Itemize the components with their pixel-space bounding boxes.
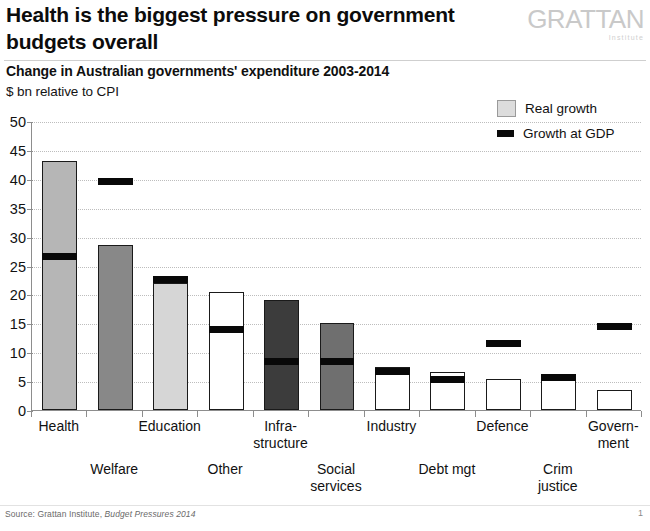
grattan-logo: GRATTAN Institute (504, 6, 644, 50)
gdp-growth-marker[interactable] (42, 253, 77, 260)
bar-group[interactable] (153, 121, 188, 410)
header-divider (4, 60, 646, 61)
bar-group[interactable] (486, 121, 521, 410)
x-axis-label-health: Health (14, 418, 103, 435)
gdp-growth-marker[interactable] (541, 374, 576, 381)
bar-real-growth[interactable] (486, 379, 521, 410)
bar-group[interactable] (42, 121, 77, 410)
x-axis-label-social-services: Socialservices (292, 461, 381, 494)
bar-real-growth[interactable] (98, 245, 133, 410)
y-axis-tick-label: 30 (0, 231, 26, 246)
y-axis-labels: 05101520253035404550 (0, 122, 26, 411)
bar-real-growth[interactable] (42, 161, 77, 410)
source-prefix: Source: Grattan Institute, (5, 509, 105, 519)
bar-group[interactable] (541, 121, 576, 410)
gdp-growth-marker[interactable] (98, 178, 133, 185)
legend-label-real-growth: Real growth (525, 101, 597, 116)
page-title: Health is the biggest pressure on govern… (6, 2, 506, 55)
legend-item-real-growth: Real growth (497, 100, 647, 117)
bar-group[interactable] (209, 121, 244, 410)
y-axis-tick-label: 15 (0, 317, 26, 332)
y-axis-tick-label: 25 (0, 260, 26, 275)
gdp-growth-marker[interactable] (430, 376, 465, 383)
x-axis-label-education: Education (125, 418, 214, 435)
legend-swatch-icon-real-growth (497, 100, 516, 117)
y-axis-tick-label: 35 (0, 202, 26, 217)
page-number: 1 (638, 508, 643, 518)
x-axis-label-defence: Defence (458, 418, 547, 435)
gdp-growth-marker[interactable] (209, 326, 244, 333)
bar-real-growth[interactable] (541, 379, 576, 410)
gdp-growth-marker[interactable] (153, 276, 188, 283)
chart-units-label: $ bn relative to CPI (6, 84, 119, 99)
gdp-growth-marker[interactable] (320, 358, 355, 365)
chart-subtitle: Change in Australian governments' expend… (6, 63, 389, 79)
bar-group[interactable] (597, 121, 632, 410)
y-axis-tick-label: 45 (0, 144, 26, 159)
bar-group[interactable] (320, 121, 355, 410)
y-axis-tick-label: 5 (0, 375, 26, 390)
x-axis-label-welfare: Welfare (70, 461, 159, 478)
x-axis-labels: HealthWelfareEducationOtherInfra-structu… (0, 414, 650, 504)
plot-area (31, 122, 641, 411)
slide: Health is the biggest pressure on govern… (0, 0, 650, 531)
gdp-growth-marker[interactable] (486, 340, 521, 347)
bar-real-growth[interactable] (153, 283, 188, 410)
y-axis-tick-label: 20 (0, 288, 26, 303)
y-axis-tick-label: 40 (0, 173, 26, 188)
footer-divider (0, 505, 650, 506)
logo-subtext: Institute (504, 34, 644, 41)
x-axis-label-crim-justice: Crimjustice (513, 461, 602, 494)
gdp-growth-marker[interactable] (597, 323, 632, 330)
bar-real-growth[interactable] (209, 292, 244, 410)
bar-real-growth[interactable] (264, 300, 299, 410)
x-axis-label-industry: Industry (347, 418, 436, 435)
logo-wordmark: GRATTAN (504, 6, 644, 32)
source-note: Source: Grattan Institute, Budget Pressu… (5, 509, 196, 519)
y-axis-tick-label: 50 (0, 115, 26, 130)
bar-group[interactable] (264, 121, 299, 410)
x-axis-label-government: Govern-ment (569, 418, 650, 451)
bar-group[interactable] (375, 121, 410, 410)
x-axis-label-other: Other (181, 461, 270, 478)
source-title: Budget Pressures 2014 (105, 509, 196, 519)
y-axis-tick-label: 10 (0, 346, 26, 361)
gdp-growth-marker[interactable] (375, 368, 410, 375)
bar-real-growth[interactable] (320, 323, 355, 410)
x-axis-label-infra-structure: Infra-structure (236, 418, 325, 451)
gdp-growth-marker[interactable] (264, 358, 299, 365)
bar-series (32, 122, 641, 410)
x-axis-label-debt-mgt: Debt mgt (403, 461, 492, 478)
bar-group[interactable] (98, 121, 133, 410)
bar-real-growth[interactable] (597, 390, 632, 410)
bar-group[interactable] (430, 121, 465, 410)
